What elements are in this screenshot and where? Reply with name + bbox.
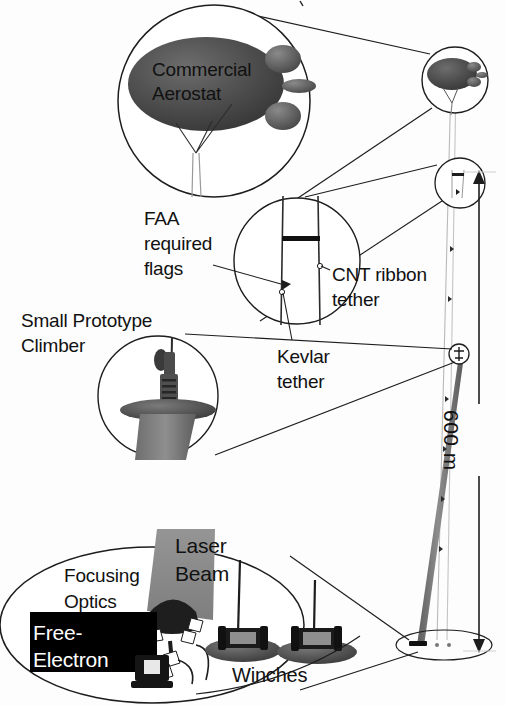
flag-detail-node-lower [279,289,284,294]
winch-right-drum [303,632,331,645]
dimension-600m [462,170,496,653]
label-small-prototype-climber: Small Prototype Climber [21,308,152,358]
flag-detail-ribbon-bar [282,236,320,241]
computer-screen [144,660,160,674]
aerostat-small-fin-top [467,62,481,72]
climber-marker-main [449,344,469,364]
climber-detail-beam-cone [135,414,196,460]
callout-ground-leader-top [290,556,409,640]
label-free-electron: Free- Electron [33,619,108,673]
callout-climber-leader-bottom [215,362,455,455]
label-kevlar-tether: Kevlar tether [277,344,330,394]
aerostat-small-fin-bottom [467,77,481,87]
dimension-text-backdrop [462,404,488,476]
label-focusing-optics: Focusing Optics [64,563,140,615]
aerostat-small [422,47,488,115]
label-cnt-ribbon-tether: CNT ribbon tether [332,262,427,312]
callout-aerostat-leader-bottom [295,108,432,200]
top-edge-tick [300,1,303,6]
label-altitude-600m: 600 m [440,410,462,471]
tether-base-anchor [409,641,427,646]
aerostat-large-fin-top [265,45,301,73]
climber-detail-body-upper [164,352,175,376]
label-winches: Winches [232,664,307,686]
flag-marker-bar [452,173,464,176]
winch-left-post-b [260,626,268,650]
tether-base-point-b [447,643,451,647]
label-laser-beam: Laser Beam [175,532,229,588]
computer-icon [131,655,173,688]
figure-canvas: Commercial Aerostat FAA required flags S… [0,0,506,705]
callout-flags-leader-top [305,165,437,197]
winch-right-post-a [291,626,299,651]
computer-keyboard [131,681,173,688]
label-commercial-aerostat: Commercial Aerostat [152,58,251,106]
label-faa-required-flags: FAA required flags [144,206,212,281]
cnt-ribbon-tether-band [417,355,464,646]
aerostat-large-fin-bottom [265,102,301,130]
winch-left-drum [230,632,256,644]
aerostat-small-fin-rear [476,72,488,78]
winch-left-post-a [218,626,226,650]
aerostat-large-fin-rear [282,79,316,93]
winch-right-line [314,580,315,632]
winch-right-post-b [334,626,342,651]
tether-base-point-a [435,643,439,647]
tether-flag-marks [439,196,456,552]
